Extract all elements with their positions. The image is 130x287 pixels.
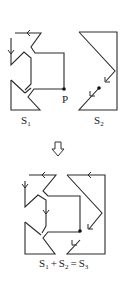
shape-s3: S1+S2=S3 (22, 172, 105, 271)
s2-label: S2 (94, 114, 104, 128)
shape-s1: P S1 (8, 30, 68, 128)
hollow-down-arrow-icon (52, 142, 64, 156)
path-sum-diagram: P S1 S2 S1+S2=S3 (0, 0, 130, 287)
equation-label: S1+S2=S3 (39, 257, 89, 271)
point-p-label: P (62, 93, 68, 105)
point-p-dot (78, 229, 82, 233)
point-p-dot (62, 87, 66, 91)
shape-s2: S2 (79, 32, 117, 128)
s1-label: S1 (21, 114, 31, 128)
s2-start-dot (97, 86, 101, 90)
